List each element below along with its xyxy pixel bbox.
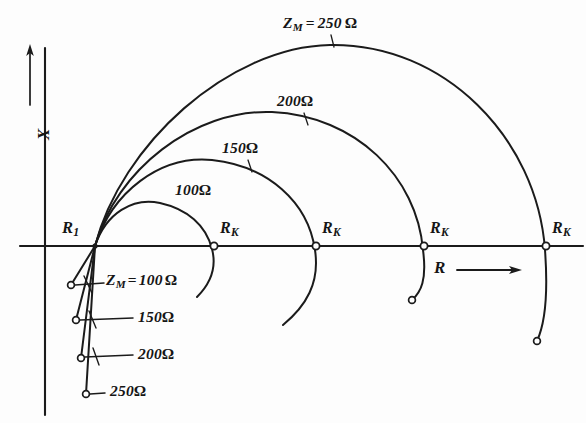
leader-curve-200	[304, 113, 308, 125]
leg-label-250: 250Ω	[110, 382, 146, 400]
ohm-icon: Ω	[246, 139, 259, 156]
ohm-icon: Ω	[199, 181, 212, 198]
ohm-icon: Ω	[342, 14, 358, 31]
rk-subscript: K	[231, 226, 239, 238]
zm-equals: =	[126, 271, 139, 288]
curve-label-150: 150Ω	[222, 139, 258, 157]
marker-leg-end-150	[73, 317, 80, 324]
r1-subscript: 1	[73, 225, 79, 239]
rk-text: R	[322, 219, 333, 236]
marker-rk-2	[312, 242, 319, 249]
ohm-icon: Ω	[301, 92, 314, 109]
zm-symbol: Z	[106, 271, 116, 288]
rk-text: R	[430, 219, 441, 236]
rk-subscript: K	[333, 226, 341, 238]
leg-label-200: 200Ω	[138, 345, 174, 363]
leg-value-150: 150	[138, 308, 162, 325]
zm-value-250: 250	[318, 14, 342, 31]
ohm-icon: Ω	[163, 271, 178, 288]
leg-label-150: 150Ω	[138, 308, 174, 326]
curve-value-150: 150	[222, 139, 246, 156]
leader-100-ohm	[75, 283, 104, 285]
curve-250-ohm	[95, 45, 546, 341]
marker-curve-end-200	[409, 297, 416, 304]
curve-label-250: ZM=250Ω	[283, 14, 357, 33]
ohm-icon: Ω	[162, 308, 175, 325]
rk-label-3: RK	[430, 219, 449, 238]
zm-symbol: Z	[283, 14, 293, 31]
rk-subscript: K	[441, 226, 449, 238]
x-axis-label: R	[434, 258, 446, 278]
leader-200-ohm	[85, 355, 133, 357]
leg-label-100: ZM=100Ω	[106, 271, 177, 290]
curve-label-100: 100Ω	[175, 181, 211, 199]
leg-value-100: 100	[139, 271, 163, 288]
marker-curve-end-250	[534, 338, 541, 345]
leader-250-ohm	[90, 393, 105, 394]
y-axis-label: X	[34, 128, 54, 140]
rk-text: R	[220, 219, 231, 236]
ohm-icon: Ω	[134, 382, 147, 399]
figure-canvas: X R R1 ZM=250Ω 200Ω 150Ω 100Ω RK RK RK R…	[0, 0, 586, 423]
marker-leg-end-250	[83, 391, 90, 398]
rk-subscript: K	[563, 226, 571, 238]
zm-subscript: M	[116, 278, 126, 290]
leader-150-ohm	[80, 318, 133, 320]
r1-text: R	[62, 218, 73, 237]
marker-leg-end-100	[68, 282, 75, 289]
curve-value-200: 200	[277, 92, 301, 109]
marker-r1-origin	[92, 243, 97, 248]
zm-equals: =	[303, 14, 318, 31]
curve-value-100: 100	[175, 181, 199, 198]
leg-value-200: 200	[138, 345, 162, 362]
marker-leg-end-200	[78, 355, 85, 362]
leg-value-250: 250	[110, 382, 134, 399]
curve-label-200: 200Ω	[277, 92, 313, 110]
zm-subscript: M	[293, 21, 303, 33]
circle-diagram-plot	[0, 0, 586, 423]
marker-rk-1	[210, 242, 217, 249]
rk-label-4: RK	[552, 219, 571, 238]
marker-rk-4	[542, 242, 549, 249]
rk-label-2: RK	[322, 219, 341, 238]
marker-rk-3	[420, 242, 427, 249]
leg-200-ohm	[81, 246, 95, 358]
rk-label-1: RK	[220, 219, 239, 238]
rk-text: R	[552, 219, 563, 236]
r1-point-label: R1	[62, 218, 79, 240]
ohm-icon: Ω	[162, 345, 175, 362]
